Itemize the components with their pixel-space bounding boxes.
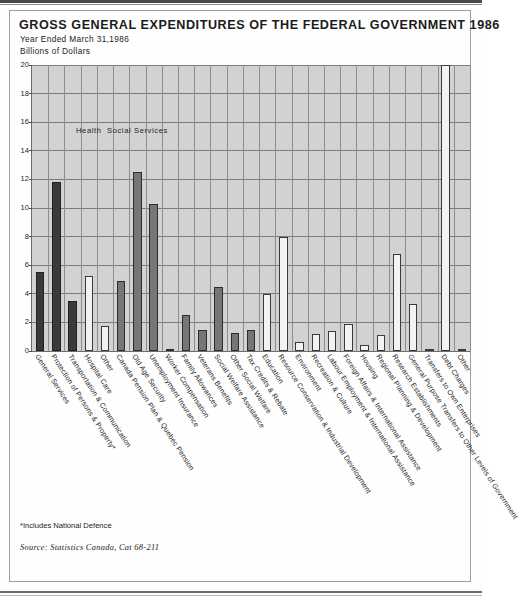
y-tick-label: 0 (25, 347, 29, 355)
bar (377, 335, 385, 351)
x-gridline (470, 65, 471, 351)
y-tick-mark (29, 236, 32, 237)
chart-plot-area: 02468101214161820HealthSocial Services (31, 65, 470, 352)
bar (328, 331, 336, 351)
x-gridline (340, 65, 341, 351)
x-gridline (146, 65, 147, 351)
page-title: GROSS GENERAL EXPENDITURES OF THE FEDERA… (19, 18, 459, 32)
x-gridline (405, 65, 406, 351)
y-tick-label: 16 (21, 118, 29, 126)
chart-footnote: *Includes National Defence (20, 521, 112, 530)
x-gridline (373, 65, 374, 351)
bar (344, 324, 352, 351)
y-tick-label: 6 (25, 261, 29, 269)
bar (393, 254, 401, 351)
bar (409, 304, 417, 351)
chart-source: Source: Statistics Canada, Cat 68-211 (20, 543, 159, 552)
y-tick-mark (29, 322, 32, 323)
bar (166, 349, 174, 351)
x-gridline (97, 65, 98, 351)
y-tick-mark (29, 150, 32, 151)
bar (263, 294, 271, 351)
x-gridline (48, 65, 49, 351)
bar (85, 276, 93, 351)
y-tick-mark (29, 208, 32, 209)
x-gridline (389, 65, 390, 351)
x-gridline (259, 65, 260, 351)
x-gridline (308, 65, 309, 351)
x-gridline (454, 65, 455, 351)
bar (247, 330, 255, 351)
bar (198, 330, 206, 351)
top-rule-thin (0, 4, 482, 5)
x-gridline (162, 65, 163, 351)
bar (133, 172, 141, 351)
x-gridline (210, 65, 211, 351)
x-axis-labels: General ServicesProtection of Persons & … (31, 353, 469, 523)
bar (68, 301, 76, 351)
y-tick-mark (29, 65, 32, 66)
bar (360, 345, 368, 351)
bar (458, 349, 466, 351)
y-tick-label: 18 (21, 90, 29, 98)
x-gridline (129, 65, 130, 351)
x-gridline (194, 65, 195, 351)
y-tick-label: 2 (25, 319, 29, 327)
y-tick-mark (29, 122, 32, 123)
bar (149, 204, 157, 351)
group-annotation-label: Health (76, 126, 102, 135)
x-gridline (292, 65, 293, 351)
y-tick-label: 4 (25, 290, 29, 298)
x-gridline (243, 65, 244, 351)
bar (231, 333, 239, 351)
x-gridline (113, 65, 114, 351)
x-gridline (324, 65, 325, 351)
y-tick-mark (29, 93, 32, 94)
x-gridline (227, 65, 228, 351)
x-gridline (356, 65, 357, 351)
x-gridline (421, 65, 422, 351)
group-annotation-label: Social Services (107, 126, 168, 135)
x-gridline (438, 65, 439, 351)
bar (52, 182, 60, 351)
chart-subtitle: Year Ended March 31,1986 (20, 34, 129, 44)
bar (425, 349, 433, 351)
x-gridline (64, 65, 65, 351)
bar (117, 281, 125, 351)
bar (279, 237, 287, 351)
y-tick-mark (29, 265, 32, 266)
y-tick-mark (29, 351, 32, 352)
chart-units-label: Billions of Dollars (20, 46, 90, 56)
x-gridline (81, 65, 82, 351)
bar (214, 287, 222, 351)
y-tick-label: 10 (21, 204, 29, 212)
bottom-rule-thick (0, 591, 482, 593)
y-tick-label: 8 (25, 233, 29, 241)
bar (295, 342, 303, 351)
bar (36, 272, 44, 351)
y-tick-label: 12 (21, 176, 29, 184)
y-tick-label: 14 (21, 147, 29, 155)
top-rule-thick (0, 0, 482, 3)
y-tick-mark (29, 293, 32, 294)
bar (182, 315, 190, 351)
x-gridline (178, 65, 179, 351)
y-tick-label: 20 (21, 61, 29, 69)
bar (441, 65, 449, 351)
y-tick-mark (29, 179, 32, 180)
x-gridline (275, 65, 276, 351)
bar (312, 334, 320, 351)
bar (101, 326, 109, 351)
